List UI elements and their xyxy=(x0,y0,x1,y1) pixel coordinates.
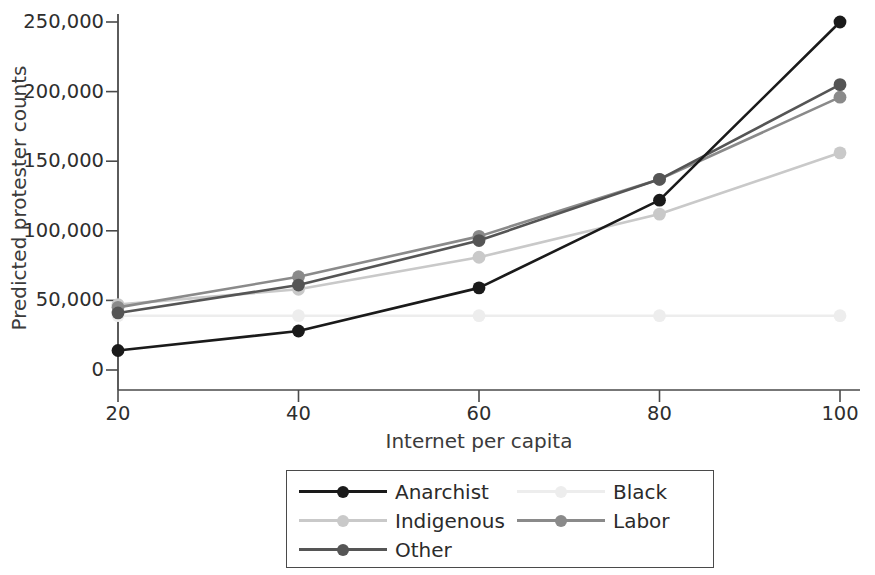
data-point-marker xyxy=(653,208,666,221)
legend-item-other[interactable]: Other xyxy=(299,535,517,564)
legend-marker-icon xyxy=(337,544,349,556)
data-point-marker xyxy=(473,234,486,247)
data-point-marker xyxy=(473,251,486,264)
data-point-marker xyxy=(653,309,666,322)
series-line xyxy=(118,85,840,313)
data-point-marker xyxy=(292,279,305,292)
data-point-marker xyxy=(834,146,847,159)
legend-swatch-icon xyxy=(299,541,387,559)
legend-marker-icon xyxy=(555,486,567,498)
legend-label: Anarchist xyxy=(395,482,489,502)
legend-swatch-icon xyxy=(299,483,387,501)
data-point-marker xyxy=(473,281,486,294)
data-point-marker xyxy=(653,173,666,186)
legend-label: Labor xyxy=(613,511,670,531)
data-point-marker xyxy=(473,309,486,322)
legend-marker-icon xyxy=(337,486,349,498)
legend-marker-icon xyxy=(555,515,567,527)
legend-label: Black xyxy=(613,482,667,502)
legend-label: Indigenous xyxy=(395,511,505,531)
data-point-marker xyxy=(112,344,125,357)
data-point-marker xyxy=(292,325,305,338)
legend-swatch-icon xyxy=(517,512,605,530)
chart-figure: Predicted protester counts 250,000200,00… xyxy=(0,0,875,575)
series-black xyxy=(112,309,847,322)
legend-item-black[interactable]: Black xyxy=(517,477,717,506)
legend-swatch-icon xyxy=(299,512,387,530)
series-anarchist xyxy=(112,16,847,357)
legend: AnarchistBlackIndigenousLaborOther xyxy=(286,470,714,568)
legend-swatch-icon xyxy=(517,483,605,501)
legend-item-anarchist[interactable]: Anarchist xyxy=(299,477,517,506)
axis-tick-marks xyxy=(106,22,840,402)
data-series-layer xyxy=(112,16,847,357)
legend-label: Other xyxy=(395,540,452,560)
series-line xyxy=(118,22,840,351)
data-point-marker xyxy=(834,78,847,91)
legend-item-indigenous[interactable]: Indigenous xyxy=(299,506,517,535)
data-point-marker xyxy=(653,194,666,207)
legend-entries: AnarchistBlackIndigenousLaborOther xyxy=(287,471,713,567)
data-point-marker xyxy=(112,307,125,320)
legend-item-labor[interactable]: Labor xyxy=(517,506,717,535)
axis-lines xyxy=(118,14,860,390)
data-point-marker xyxy=(292,309,305,322)
data-point-marker xyxy=(834,91,847,104)
data-point-marker xyxy=(834,16,847,29)
data-point-marker xyxy=(834,309,847,322)
legend-marker-icon xyxy=(337,515,349,527)
